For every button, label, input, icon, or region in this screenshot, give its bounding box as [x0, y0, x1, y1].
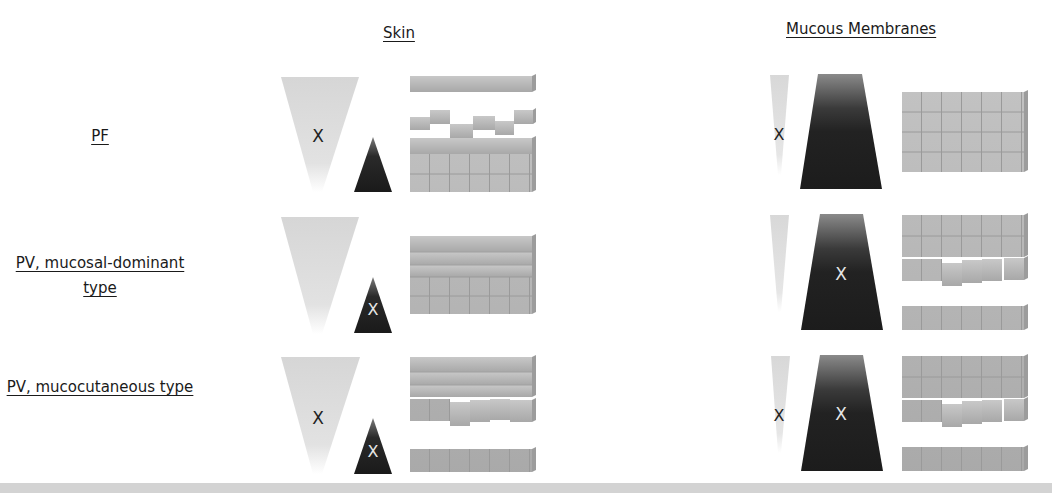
dsg1-wedge-skin-pv-mucosal — [281, 217, 359, 334]
row-pv-mucocutaneous-mucous: X X — [771, 354, 1028, 471]
dsg3-marker: X — [368, 300, 379, 319]
dsg1-marker: X — [774, 406, 785, 425]
row-pf-mucous: X — [770, 74, 1028, 189]
epidermis-skin-pv-mucosal — [410, 234, 536, 314]
dsg3-triangle-skin-pf — [354, 137, 392, 192]
row-pv-mucocutaneous-skin: X X — [281, 355, 536, 474]
row-pv-mucosal-mucous: X — [770, 213, 1028, 330]
bottom-band — [0, 483, 1052, 493]
dsg3-marker: X — [835, 264, 847, 284]
row-pv-mucosal-skin: X — [281, 217, 536, 334]
epithelium-mucous-pv-mucocutaneous — [902, 354, 1028, 471]
dsg3-marker: X — [835, 404, 847, 424]
dsg1-marker: X — [312, 126, 324, 146]
dsg3-trapezoid-mucous-pf — [800, 74, 882, 189]
epidermis-skin-pv-mucocutaneous — [410, 355, 536, 472]
dsg3-marker: X — [368, 442, 379, 461]
epidermis-skin-pf — [410, 74, 536, 192]
epithelium-mucous-pv-mucosal — [902, 213, 1028, 330]
dsg1-marker: X — [312, 408, 324, 428]
dsg1-wedge-mucous-pv-mucosal — [770, 215, 789, 312]
dsg1-wedge-mucous-pv-mucocutaneous — [771, 356, 790, 453]
dsg1-marker: X — [774, 125, 785, 144]
epithelium-mucous-pf — [902, 90, 1028, 172]
diagram-canvas: X X — [0, 0, 1052, 493]
row-pf-skin: X — [281, 74, 536, 192]
